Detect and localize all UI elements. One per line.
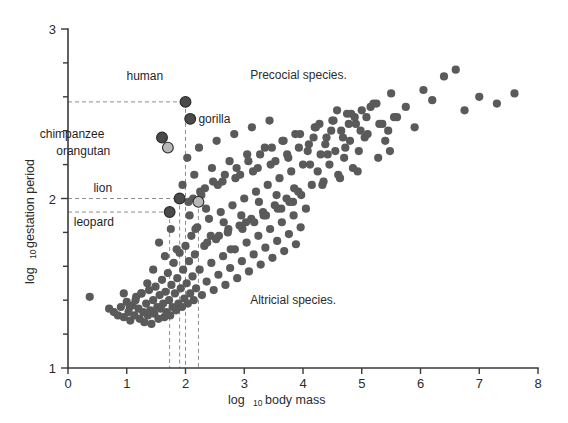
data-point [390, 113, 398, 121]
data-point [183, 279, 191, 287]
data-point [317, 150, 325, 158]
data-point [291, 130, 299, 138]
data-point [325, 161, 333, 169]
data-point [275, 174, 283, 182]
data-point [181, 242, 189, 250]
data-point [309, 133, 317, 141]
data-point [202, 205, 210, 213]
data-point [262, 211, 270, 219]
data-point [264, 181, 272, 189]
data-point [268, 144, 276, 152]
data-point [248, 123, 256, 131]
data-point [297, 223, 305, 231]
data-point [278, 218, 286, 226]
data-point [191, 250, 199, 258]
y-tick-label: 1 [49, 361, 56, 376]
data-point [213, 137, 221, 145]
highlighted-point-unlabeled [193, 196, 204, 207]
data-point [256, 150, 264, 158]
data-point [245, 267, 253, 275]
data-point [295, 144, 303, 152]
data-point [280, 137, 288, 145]
data-point [161, 252, 169, 260]
data-point [273, 237, 281, 245]
data-point [493, 99, 501, 107]
highlighted-point-gorilla [185, 113, 196, 124]
annotation-precocial: Precocial species. [250, 68, 347, 82]
data-point [164, 269, 172, 277]
data-point [340, 154, 348, 162]
data-point [372, 99, 380, 107]
data-point [183, 154, 191, 162]
data-point [151, 283, 159, 291]
y-axis-title-rest: gestation period [23, 159, 37, 248]
data-point [227, 245, 235, 253]
scatter-plot-figure: 012345678123 Precocial species.Altricial… [0, 0, 568, 423]
data-point [387, 89, 395, 97]
highlighted-point-orangutan [162, 142, 173, 153]
highlighted-point-leopard [164, 207, 175, 218]
y-tick-label: 2 [49, 192, 56, 207]
data-point [240, 194, 248, 202]
data-point [321, 140, 329, 148]
data-point [261, 244, 269, 252]
data-point [290, 211, 298, 219]
data-point [354, 167, 362, 175]
data-point [230, 130, 238, 138]
highlighted-points-group [157, 96, 204, 217]
data-point [428, 96, 436, 104]
x-tick-label: 7 [476, 376, 483, 391]
data-point [205, 215, 213, 223]
x-tick-label: 6 [417, 376, 424, 391]
data-point [185, 257, 193, 265]
data-point [238, 257, 246, 265]
x-tick-label: 8 [534, 376, 541, 391]
data-point [137, 289, 145, 297]
data-point [214, 271, 222, 279]
data-point [167, 281, 175, 289]
data-point [356, 127, 364, 135]
highlighted-point-human [180, 96, 191, 107]
plot-canvas: 012345678123 Precocial species.Altricial… [0, 0, 568, 423]
data-point [147, 320, 155, 328]
x-tick-label: 3 [241, 376, 248, 391]
x-tick-label: 1 [123, 376, 130, 391]
data-point [440, 72, 448, 80]
data-point [329, 116, 337, 124]
data-point [219, 252, 227, 260]
data-point [257, 261, 265, 269]
data-point [374, 154, 382, 162]
x-axis-title: log 10 body mass [228, 393, 325, 408]
data-point [274, 205, 282, 213]
data-point [324, 150, 332, 158]
data-point [271, 157, 279, 165]
data-point [297, 191, 305, 199]
data-point [292, 240, 300, 248]
x-tick-label: 4 [299, 376, 306, 391]
data-point [210, 286, 218, 294]
data-point [243, 238, 251, 246]
data-point [237, 211, 245, 219]
data-point [384, 127, 392, 135]
data-point [411, 123, 419, 131]
data-point [167, 225, 175, 233]
data-point [361, 133, 369, 141]
data-point [178, 181, 186, 189]
y-axis-title-main: log [23, 267, 37, 284]
annotation-altricial: Altricial species. [250, 293, 336, 307]
data-point [220, 218, 228, 226]
data-point [120, 289, 128, 297]
data-point [452, 66, 460, 74]
data-point [226, 264, 234, 272]
data-point [336, 174, 344, 182]
data-point [250, 218, 258, 226]
y-tick-label: 3 [49, 22, 56, 37]
data-point [190, 296, 198, 304]
x-tick-label: 2 [182, 376, 189, 391]
data-point [314, 167, 322, 175]
data-point [143, 279, 151, 287]
data-point [299, 161, 307, 169]
data-point [252, 188, 260, 196]
data-point [402, 103, 410, 111]
data-point [142, 299, 150, 307]
